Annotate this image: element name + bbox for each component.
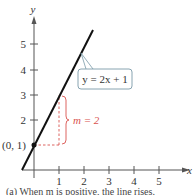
line-chart: 1 2 3 4 5 2 3 4 5 y x m = 2 (0, 1) y = 2… (0, 0, 196, 195)
x-axis-label: x (186, 164, 192, 176)
line-y-2x-plus-1 (22, 30, 93, 170)
y-axis-label: y (30, 3, 36, 15)
slope-label: m = 2 (73, 114, 100, 126)
y-tick-label: 3 (21, 89, 27, 101)
figure-caption: (a) When m is positive, the line rises. (6, 186, 155, 195)
x-tick-label: 5 (156, 175, 162, 187)
callout-pointer (81, 53, 93, 69)
y-tick-label: 5 (21, 38, 27, 50)
point-label: (0, 1) (2, 139, 26, 152)
y-axis-arrow-icon (32, 16, 37, 24)
intercept-point (32, 143, 37, 148)
equation-label: y = 2x + 1 (82, 73, 127, 85)
y-tick-label: 4 (21, 64, 27, 76)
y-tick-label: 2 (21, 114, 27, 126)
slope-brace (62, 96, 69, 144)
